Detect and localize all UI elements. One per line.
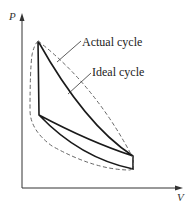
- actual-leader-line: [57, 41, 81, 62]
- y-axis-arrow-icon: [20, 13, 25, 21]
- pv-diagram: P V Actual cycle Ideal cycle: [0, 0, 188, 205]
- x-axis-arrow-icon: [175, 186, 183, 191]
- y-axis-label: P: [8, 10, 16, 22]
- actual-cycle-label: Actual cycle: [82, 35, 142, 49]
- ideal-cycle-curve: [38, 41, 133, 169]
- ideal-cycle-label: Ideal cycle: [92, 65, 144, 79]
- ideal-leader-line: [68, 73, 91, 94]
- x-axis-label: V: [177, 191, 185, 203]
